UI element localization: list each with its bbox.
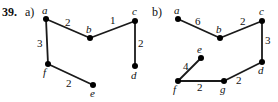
edge-graph-b-fe: [178, 58, 201, 81]
edge-weight-graph-b-fg: 2: [197, 82, 203, 93]
vertex-label-graph-a-d: d: [131, 70, 137, 81]
edge-weight-graph-b-fe: 4: [183, 61, 189, 72]
vertex-graph-b-e: [198, 55, 204, 61]
vertex-label-graph-a-b: b: [86, 24, 92, 35]
vertex-label-graph-a-a: a: [42, 5, 48, 16]
vertex-label-graph-b-e: e: [197, 44, 202, 55]
vertex-label-graph-a-f: f: [43, 67, 46, 78]
vertex-label-graph-b-c: c: [259, 6, 264, 17]
edge-weight-graph-a-bc: 1: [110, 15, 116, 26]
vertex-label-graph-b-b: b: [216, 24, 222, 35]
vertex-graph-b-c: [259, 18, 265, 24]
edge-weight-graph-a-cd: 2: [138, 38, 144, 49]
edge-weight-graph-b-bc: 2: [240, 16, 246, 27]
vertex-label-graph-b-a: a: [174, 5, 180, 16]
edge-weight-graph-a-ab: 2: [65, 17, 71, 28]
edge-weight-graph-b-cd: 3: [265, 35, 271, 46]
vertex-label-graph-b-g: g: [220, 84, 226, 95]
edge-graph-b-dg: [224, 62, 262, 81]
vertex-label-graph-a-c: c: [132, 6, 137, 17]
edge-weight-graph-b-ab: 6: [195, 16, 201, 27]
vertex-graph-a-a: [43, 16, 49, 22]
vertex-graph-a-b: [87, 35, 93, 41]
vertex-graph-b-b: [217, 35, 223, 41]
vertex-graph-a-c: [132, 18, 138, 24]
figure-canvas: 39. a) b) abcdef21232abcdefg623224: [0, 0, 278, 102]
edge-graph-a-af: [46, 19, 48, 64]
edge-weight-graph-a-af: 3: [37, 38, 43, 49]
vertex-label-graph-b-d: d: [258, 65, 264, 76]
edge-weight-graph-b-dg: 2: [236, 75, 242, 86]
vertex-label-graph-a-e: e: [90, 88, 95, 99]
vertex-label-graph-b-f: f: [173, 84, 176, 95]
vertex-graph-b-a: [175, 16, 181, 22]
edge-weight-graph-a-fe: 2: [66, 78, 72, 89]
